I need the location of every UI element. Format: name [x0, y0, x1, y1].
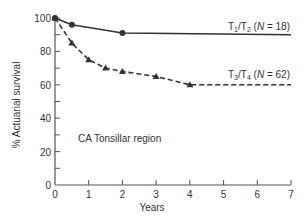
series-label-t3-t4: T3/T4 (N = 62): [228, 69, 290, 81]
triangle-marker-icon: [119, 68, 126, 74]
series-label-t1-t2: T1/T2 (N = 18): [228, 21, 290, 33]
x-tick-label: 5: [221, 189, 227, 200]
y-tick-label: 0: [45, 180, 51, 191]
x-tick-label: 0: [52, 189, 58, 200]
y-tick-label: 20: [40, 147, 52, 158]
x-tick-label: 7: [288, 189, 294, 200]
y-axis-title: % Actuarial survival: [11, 62, 22, 149]
axes: [55, 16, 291, 185]
x-axis-title: Years: [139, 202, 164, 213]
axis-ticks: 01234567020406080100: [34, 13, 294, 200]
series-markers: [52, 15, 194, 88]
circle-marker-icon: [119, 30, 125, 36]
y-tick-label: 80: [40, 46, 52, 57]
x-tick-label: 2: [120, 189, 126, 200]
x-tick-label: 3: [153, 189, 159, 200]
x-tick-label: 6: [255, 189, 261, 200]
y-tick-label: 40: [40, 113, 52, 124]
y-tick-label: 60: [40, 80, 52, 91]
x-tick-label: 1: [86, 189, 92, 200]
survival-chart: 01234567020406080100 Years % Actuarial s…: [0, 0, 307, 223]
triangle-marker-icon: [102, 65, 109, 71]
x-tick-label: 4: [187, 189, 193, 200]
y-tick-label: 100: [34, 13, 51, 24]
circle-marker-icon: [69, 22, 75, 28]
annotation-ca-tonsillar-region: CA Tonsillar region: [78, 133, 161, 144]
